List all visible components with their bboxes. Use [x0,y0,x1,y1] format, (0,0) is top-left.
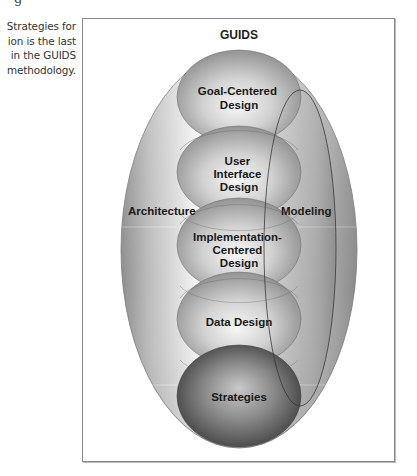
sphere-label-data-design: Data Design [206,316,272,328]
modeling-label: Modeling [281,205,331,217]
sphere-label-strategies: Strategies [211,391,267,403]
architecture-label: Architecture [128,205,196,217]
diagram-title: GUIDS [220,28,258,42]
modeling-region [264,90,336,406]
guids-diagram: GUIDS Goal-Centered Design User Interfac… [0,0,417,476]
